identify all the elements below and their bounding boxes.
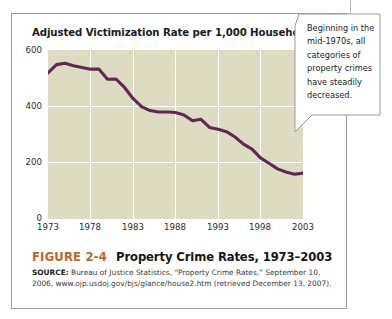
y-tick-200: 200 <box>12 157 42 167</box>
data-line-series <box>48 50 303 219</box>
x-tick-1993: 1993 <box>198 222 238 232</box>
figure-caption: FIGURE 2-4Property Crime Rates, 1973–200… <box>32 247 332 265</box>
annotation-callout: Beginning in the mid-1970s, all categori… <box>293 12 381 140</box>
x-tick-1973: 1973 <box>28 222 68 232</box>
x-tick-1998: 1998 <box>240 222 280 232</box>
figure-source: SOURCE: Bureau of Justice Statistics, “P… <box>32 267 338 290</box>
source-body: Bureau of Justice Statistics, “Property … <box>32 268 331 288</box>
x-tick-1988: 1988 <box>155 222 195 232</box>
y-tick-400: 400 <box>12 101 42 111</box>
callout-text: Beginning in the mid-1970s, all categori… <box>307 22 377 102</box>
x-tick-1978: 1978 <box>70 222 110 232</box>
x-tick-1983: 1983 <box>113 222 153 232</box>
x-tick-2003: 2003 <box>283 222 323 232</box>
figure-number: FIGURE 2-4 <box>32 250 107 264</box>
source-label: SOURCE: <box>32 268 69 277</box>
figure-title: Property Crime Rates, 1973–2003 <box>116 250 332 264</box>
y-tick-600: 600 <box>12 45 42 55</box>
